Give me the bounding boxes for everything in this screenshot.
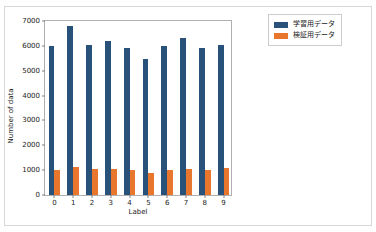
- bar-validation-2: [92, 169, 98, 195]
- x-tick-mark: [110, 195, 111, 198]
- plot-area: [45, 21, 231, 195]
- x-tick-mark: [148, 195, 149, 198]
- legend-item: 学習用データ: [274, 19, 335, 30]
- y-tick-mark: [42, 195, 45, 196]
- bar-validation-8: [205, 170, 211, 195]
- x-tick-mark: [186, 195, 187, 198]
- bar-validation-5: [148, 173, 154, 195]
- x-tick-mark: [223, 195, 224, 198]
- y-tick-mark: [42, 120, 45, 121]
- x-tick-mark: [204, 195, 205, 198]
- y-tick-mark: [42, 70, 45, 71]
- bar-validation-6: [167, 170, 173, 195]
- x-tick-mark: [92, 195, 93, 198]
- bar-validation-7: [186, 169, 192, 195]
- y-tick-mark: [42, 45, 45, 46]
- legend-label: 学習用データ: [293, 21, 335, 28]
- y-tick-mark: [42, 21, 45, 22]
- legend-label: 検証用データ: [293, 32, 335, 39]
- bar-validation-3: [111, 169, 117, 195]
- x-tick-mark: [73, 195, 74, 198]
- bar-validation-4: [130, 170, 136, 195]
- legend-swatch-icon: [274, 22, 288, 28]
- bar-validation-9: [224, 168, 230, 195]
- y-tick-mark: [42, 170, 45, 171]
- x-axis-label: Label: [44, 208, 232, 216]
- x-tick-mark: [129, 195, 130, 198]
- y-axis-label: Number of data: [7, 88, 15, 143]
- x-tick-mark: [54, 195, 55, 198]
- legend-item: 検証用データ: [274, 30, 335, 41]
- y-tick-mark: [42, 95, 45, 96]
- plot-axes: 010002000300040005000600070000123456789: [44, 20, 232, 196]
- figure-canvas: Number of data 0100020003000400050006000…: [0, 0, 376, 232]
- chart-legend: 学習用データ検証用データ: [268, 14, 342, 46]
- y-tick-mark: [42, 145, 45, 146]
- bar-validation-1: [73, 167, 79, 195]
- legend-swatch-icon: [274, 33, 288, 39]
- x-tick-mark: [167, 195, 168, 198]
- bar-validation-0: [54, 170, 60, 195]
